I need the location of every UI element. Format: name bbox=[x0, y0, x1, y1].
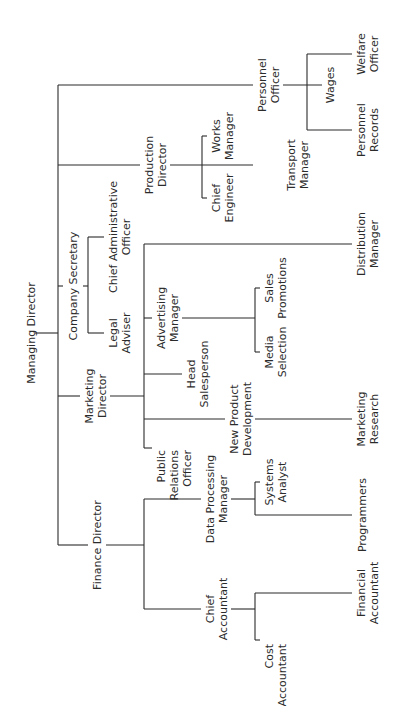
node-label: Managing Director bbox=[25, 282, 38, 384]
node-chief-administrative-officer: Chief Administrative Officer bbox=[107, 181, 133, 293]
node-head-salesperson: Head Salesperson bbox=[185, 340, 211, 407]
node-data-processing-manager: Data Processing Manager bbox=[204, 455, 230, 544]
org-chart: Managing Director Personnel Officer Wage… bbox=[0, 0, 409, 706]
node-advertising-manager: Advertising Manager bbox=[155, 287, 181, 349]
node-label: Programmers bbox=[356, 478, 369, 552]
node-label: Marketing bbox=[83, 369, 96, 424]
node-personnel-records: Personnel Records bbox=[355, 103, 381, 157]
node-wages: Wages bbox=[324, 67, 337, 104]
node-label: Works bbox=[210, 119, 223, 153]
node-distribution-manager: Distribution Manager bbox=[355, 212, 381, 276]
node-cost-accountant: Cost Accountant bbox=[263, 643, 289, 706]
node-production-director: Production Director bbox=[143, 136, 169, 195]
node-label: Accountant bbox=[276, 643, 289, 706]
node-label: Director bbox=[156, 142, 169, 187]
node-label: Research bbox=[368, 394, 381, 444]
node-label: Accountant bbox=[368, 561, 381, 624]
node-label: Chief Administrative bbox=[107, 181, 120, 293]
node-label: Manager bbox=[217, 474, 230, 523]
node-marketing-research: Marketing Research bbox=[355, 392, 381, 447]
node-label: Chief bbox=[204, 594, 217, 623]
node-sales-promotions: Sales Promotions bbox=[263, 257, 289, 319]
node-managing-director: Managing Director bbox=[25, 282, 38, 384]
node-label: Cost bbox=[263, 643, 276, 668]
node-label: Welfare bbox=[355, 33, 368, 75]
node-label: Personnel bbox=[355, 103, 368, 157]
node-label: Legal bbox=[107, 318, 120, 347]
node-label: New Product bbox=[228, 384, 241, 454]
node-label: Systems bbox=[263, 458, 276, 505]
node-label: Relations bbox=[168, 450, 181, 501]
node-label: Company Secretary bbox=[67, 231, 80, 340]
node-label: Personnel bbox=[256, 58, 269, 112]
node-label: Salesperson bbox=[198, 340, 211, 407]
node-label: Chief bbox=[210, 183, 223, 212]
node-label: Data Processing bbox=[204, 455, 217, 544]
node-chief-engineer: Chief Engineer bbox=[210, 173, 236, 222]
node-transport-manager: Transport Manager bbox=[285, 139, 311, 192]
labels: Managing Director Personnel Officer Wage… bbox=[25, 33, 381, 706]
node-label: Manager bbox=[298, 140, 311, 189]
node-systems-analyst: Systems Analyst bbox=[263, 458, 289, 505]
node-label: Manager bbox=[168, 293, 181, 342]
node-legal-adviser: Legal Adviser bbox=[107, 312, 133, 353]
node-label: Analyst bbox=[276, 461, 289, 503]
node-label: Promotions bbox=[276, 257, 289, 319]
node-label: Director bbox=[96, 373, 109, 418]
node-label: Adviser bbox=[120, 312, 133, 353]
node-label: Marketing bbox=[355, 392, 368, 447]
node-welfare-officer: Welfare Officer bbox=[355, 33, 381, 75]
node-works-manager: Works Manager bbox=[210, 111, 236, 160]
node-label: Wages bbox=[324, 67, 337, 104]
node-label: Sales bbox=[263, 273, 276, 303]
node-finance-director: Finance Director bbox=[91, 500, 104, 590]
node-label: Accountant bbox=[217, 577, 230, 640]
node-label: Transport bbox=[285, 139, 298, 192]
node-label: Distribution bbox=[355, 212, 368, 276]
node-label: Finance Director bbox=[91, 500, 104, 590]
node-label: Manager bbox=[223, 111, 236, 160]
node-media-selection: Media Selection bbox=[263, 327, 289, 378]
node-label: Development bbox=[241, 381, 254, 456]
node-label: Manager bbox=[368, 219, 381, 268]
node-label: Financial bbox=[355, 569, 368, 617]
node-company-secretary: Company Secretary bbox=[67, 231, 80, 340]
node-label: Head bbox=[185, 360, 198, 389]
node-personnel-officer: Personnel Officer bbox=[256, 58, 282, 112]
node-label: Production bbox=[143, 136, 156, 195]
node-label: Engineer bbox=[223, 173, 236, 222]
node-new-product-development: New Product Development bbox=[228, 381, 254, 456]
node-label: Selection bbox=[276, 327, 289, 378]
node-chief-accountant: Chief Accountant bbox=[204, 577, 230, 640]
node-marketing-director: Marketing Director bbox=[83, 369, 109, 424]
node-financial-accountant: Financial Accountant bbox=[355, 561, 381, 624]
node-programmers: Programmers bbox=[356, 478, 369, 552]
node-label: Officer bbox=[368, 35, 381, 72]
node-label: Officer bbox=[181, 450, 194, 487]
node-public-relations-officer: Public Relations Officer bbox=[155, 450, 194, 501]
node-label: Advertising bbox=[155, 287, 168, 349]
node-label: Officer bbox=[120, 218, 133, 255]
node-label: Officer bbox=[269, 66, 282, 103]
node-label: Media bbox=[263, 335, 276, 368]
node-label: Records bbox=[368, 108, 381, 152]
node-label: Public bbox=[155, 450, 168, 483]
